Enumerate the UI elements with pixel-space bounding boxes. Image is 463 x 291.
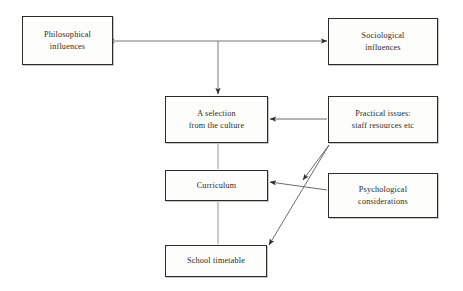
connector-practical-midpoint-arrow: [303, 145, 329, 180]
node-practical-issues-line2: staff resources etc: [352, 120, 414, 132]
node-philosophical-influences-line1: Philosophical: [44, 29, 91, 41]
node-selection-from-culture[interactable]: A selection from the culture: [165, 96, 268, 143]
node-psychological-considerations-line1: Psychological: [359, 184, 407, 196]
node-psychological-considerations[interactable]: Psychological considerations: [328, 173, 438, 218]
node-sociological-influences-line1: Sociological: [361, 30, 404, 42]
node-curriculum[interactable]: Curriculum: [165, 170, 268, 201]
node-philosophical-influences-line2: influences: [50, 41, 85, 53]
node-curriculum-line1: Curriculum: [197, 180, 237, 192]
node-sociological-influences-line2: influences: [365, 42, 400, 54]
node-philosophical-influences[interactable]: Philosophical influences: [22, 16, 113, 65]
node-school-timetable[interactable]: School timetable: [165, 245, 267, 277]
node-practical-issues-line1: Practical issues:: [355, 108, 411, 120]
node-sociological-influences[interactable]: Sociological influences: [328, 18, 438, 65]
node-selection-from-culture-line2: from the culture: [189, 120, 245, 132]
node-selection-from-culture-line1: A selection: [197, 108, 236, 120]
node-school-timetable-line1: School timetable: [187, 255, 245, 267]
diagram-canvas: Philosophical influences Sociological in…: [0, 0, 463, 291]
connector-psychological-to-curriculum: [270, 182, 327, 190]
connector-practical-to-timetable: [269, 145, 329, 245]
node-psychological-considerations-line2: considerations: [358, 196, 408, 208]
node-practical-issues[interactable]: Practical issues: staff resources etc: [328, 96, 438, 143]
